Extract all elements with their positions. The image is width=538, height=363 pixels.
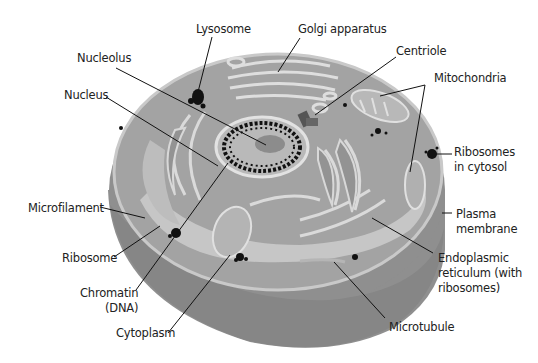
label-mitochondria: Mitochondria <box>434 71 506 86</box>
label-microfilament: Microfilament <box>28 201 104 216</box>
label-nucleus: Nucleus <box>64 88 108 103</box>
label-endoplasmic-reticulum: Endoplasmic reticulum (with ribosomes) <box>438 251 522 296</box>
nucleolus-shape <box>255 135 285 153</box>
label-plasma-membrane: Plasma membrane <box>456 207 517 237</box>
label-chromatin: Chromatin (DNA) <box>80 286 138 316</box>
label-golgi-apparatus: Golgi apparatus <box>298 22 387 37</box>
cell-diagram: Lysosome Golgi apparatus Centriole Nucle… <box>0 0 538 363</box>
label-cytoplasm: Cytoplasm <box>116 326 175 341</box>
label-lysosome: Lysosome <box>196 22 251 37</box>
label-nucleolus: Nucleolus <box>77 51 131 66</box>
label-ribosome: Ribosome <box>62 251 117 266</box>
label-centriole: Centriole <box>396 44 446 59</box>
label-ribosomes-in-cytosol: Ribosomes in cytosol <box>454 145 515 175</box>
label-microtubule: Microtubule <box>389 320 454 335</box>
